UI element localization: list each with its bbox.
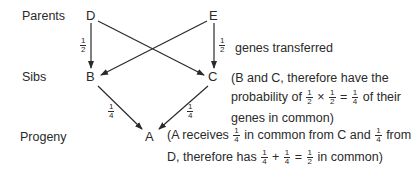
- fraction-denominator: 4: [375, 136, 381, 144]
- fraction-denominator: 4: [187, 112, 193, 120]
- fraction-denominator: 2: [329, 98, 335, 106]
- row-label-sibs: Sibs: [22, 71, 46, 84]
- fraction: 12: [307, 149, 313, 166]
- text: in common from C and: [244, 128, 370, 142]
- fraction: 14: [261, 149, 267, 166]
- sibs-note-line3: genes in common): [231, 111, 334, 125]
- text: from: [386, 128, 411, 142]
- fraction: 12: [329, 89, 335, 106]
- row-label-parents: Parents: [22, 10, 65, 23]
- equals-symbol: =: [295, 150, 302, 164]
- arrow-b-to-a: [98, 86, 142, 129]
- progeny-note-line2: D, therefore has 14 + 14 = 12 in common): [167, 149, 383, 166]
- fraction: 14: [352, 89, 358, 106]
- times-symbol: ×: [317, 90, 324, 104]
- fraction: 14: [375, 127, 381, 144]
- node-b: B: [86, 70, 95, 83]
- arrow-c-to-a: [159, 86, 208, 129]
- equals-symbol: =: [340, 90, 347, 104]
- fraction-c-to-a: 1 4: [187, 103, 193, 120]
- genes-transferred-label: genes transferred: [235, 42, 333, 55]
- fraction-denominator: 4: [284, 158, 290, 166]
- text: probability of: [231, 90, 302, 104]
- text: (A receives: [167, 128, 229, 142]
- node-c: C: [208, 70, 217, 83]
- fraction-b-to-a: 1 4: [108, 103, 114, 120]
- fraction-d-to-b: 1 2: [80, 37, 86, 54]
- text: of their: [363, 90, 401, 104]
- fraction-denominator: 2: [307, 158, 313, 166]
- plus-symbol: +: [272, 150, 279, 164]
- text: in common): [318, 150, 383, 164]
- fraction-denominator: 4: [261, 158, 267, 166]
- fraction-denominator: 2: [80, 46, 86, 54]
- sibs-note-line1: (B and C, therefore have the: [231, 71, 389, 85]
- fraction-e-to-c: 1 2: [219, 37, 225, 54]
- fraction: 14: [233, 127, 239, 144]
- fraction-denominator: 2: [306, 98, 312, 106]
- node-e: E: [209, 9, 218, 22]
- fraction: 12: [306, 89, 312, 106]
- fraction-denominator: 2: [219, 46, 225, 54]
- sibs-note-line2: probability of 12 × 12 = 14 of their: [231, 89, 401, 106]
- node-a: A: [145, 130, 154, 143]
- fraction: 14: [284, 149, 290, 166]
- fraction-denominator: 4: [352, 98, 358, 106]
- node-d: D: [86, 9, 95, 22]
- fraction-denominator: 4: [233, 136, 239, 144]
- progeny-note-line1: (A receives 14 in common from C and 14 f…: [167, 127, 411, 144]
- row-label-progeny: Progeny: [20, 131, 67, 144]
- fraction-denominator: 4: [108, 112, 114, 120]
- arrow-d-to-c: [98, 21, 204, 75]
- text: D, therefore has: [167, 150, 257, 164]
- arrow-e-to-b: [101, 21, 207, 75]
